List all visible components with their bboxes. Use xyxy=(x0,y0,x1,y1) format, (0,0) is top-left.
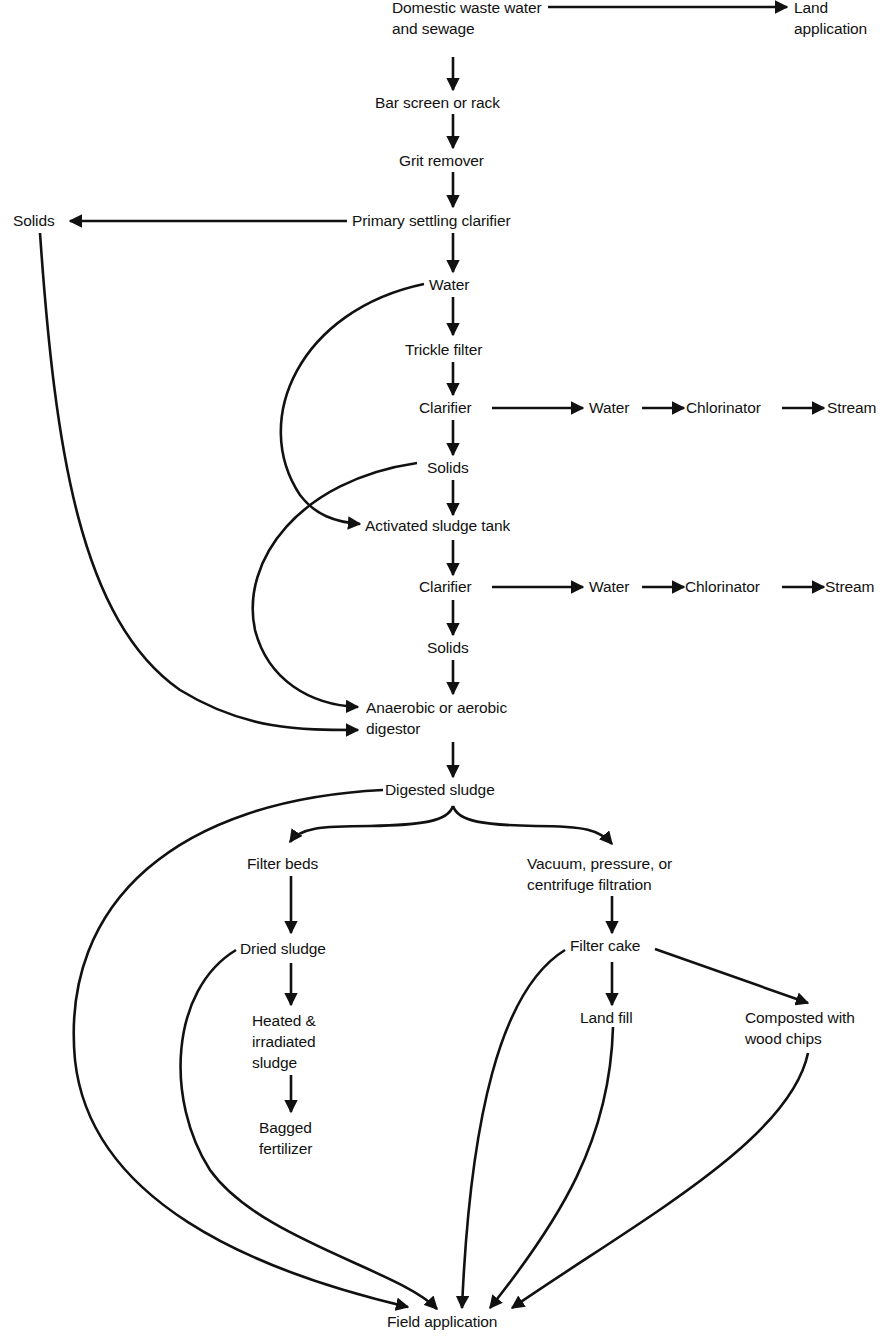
node-clarifier-2: Clarifier xyxy=(419,576,472,597)
wastewater-flow-diagram: Domestic waste water and sewage Land app… xyxy=(0,0,890,1341)
node-vacuum-filtration: Vacuum, pressure, or centrifuge filtrati… xyxy=(527,853,672,895)
node-chlorinator-2: Chlorinator xyxy=(685,576,760,597)
node-water-out-2: Water xyxy=(589,576,629,597)
diagram-arrows xyxy=(0,0,890,1341)
node-solids-2: Solids xyxy=(427,637,469,658)
node-trickle-filter: Trickle filter xyxy=(405,339,482,360)
node-chlorinator-1: Chlorinator xyxy=(686,397,761,418)
node-clarifier-1: Clarifier xyxy=(419,397,472,418)
node-filter-beds: Filter beds xyxy=(247,853,318,874)
node-primary-clarifier: Primary settling clarifier xyxy=(352,210,510,231)
node-digestor: Anaerobic or aerobic digestor xyxy=(366,697,507,739)
node-solids-1: Solids xyxy=(427,457,469,478)
node-domestic-waste-water: Domestic waste water and sewage xyxy=(392,0,542,39)
node-bar-screen: Bar screen or rack xyxy=(375,92,500,113)
node-water-out-1: Water xyxy=(589,397,629,418)
node-digested-sludge: Digested sludge xyxy=(385,779,495,800)
node-dried-sludge: Dried sludge xyxy=(240,938,326,959)
node-land-application: Land application xyxy=(794,0,867,39)
node-filter-cake: Filter cake xyxy=(570,935,640,956)
node-composted-wood-chips: Composted with wood chips xyxy=(745,1007,855,1049)
node-heated-irradiated-sludge: Heated & irradiated sludge xyxy=(252,1010,316,1073)
node-grit-remover: Grit remover xyxy=(399,150,484,171)
node-stream-2: Stream xyxy=(825,576,874,597)
node-bagged-fertilizer: Bagged fertilizer xyxy=(259,1117,312,1159)
node-stream-1: Stream xyxy=(827,397,876,418)
node-water: Water xyxy=(429,274,469,295)
node-land-fill: Land fill xyxy=(580,1007,633,1028)
node-primary-solids: Solids xyxy=(13,210,55,231)
node-activated-sludge-tank: Activated sludge tank xyxy=(365,515,510,536)
node-field-application: Field application xyxy=(387,1311,497,1332)
